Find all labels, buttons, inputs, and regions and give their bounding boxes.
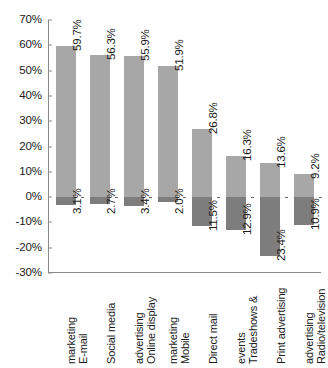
y-axis-tick-label: -10% (16, 217, 42, 229)
x-axis-category-label: Online display (145, 297, 158, 364)
bar-group[interactable]: 55.9%3.4% (124, 20, 144, 273)
bar-group[interactable]: 51.9%2.0% (158, 20, 178, 273)
y-axis-tick-label: -30% (16, 267, 42, 279)
x-axis-category-label: E-mail (77, 334, 90, 364)
bar-value-label-negative: 3.1% (71, 189, 84, 214)
zero-line-tick (183, 197, 186, 198)
bar-segment-positive[interactable] (192, 129, 212, 197)
y-axis-tick-label: 50% (19, 65, 42, 77)
bar-value-label-positive: 26.8% (207, 103, 220, 135)
bar-group[interactable]: 56.3%2.7% (90, 20, 110, 273)
y-axis-tick-label: 10% (19, 166, 42, 178)
y-axis-tick-label: 30% (19, 115, 42, 127)
bar-group[interactable]: 59.7%3.1% (56, 20, 76, 273)
zero-line-tick (251, 197, 254, 198)
bar-value-label-positive: 55.9% (139, 29, 152, 61)
x-axis-category-label: Print advertising (275, 288, 288, 364)
y-axis-tick-label: 20% (19, 141, 42, 153)
plot-area: 59.7%3.1%56.3%2.7%55.9%3.4%51.9%2.0%26.8… (49, 20, 321, 273)
bar-segment-positive[interactable] (226, 156, 246, 197)
bar-value-label-positive: 16.3% (241, 129, 254, 161)
x-axis-category-labels: E-mailmarketingSocial mediaOnline displa… (49, 276, 321, 368)
bar-segment-positive[interactable] (158, 66, 178, 197)
x-axis-category-label: Tradeshows & (247, 296, 260, 364)
x-axis-category-label: advertising (133, 312, 146, 364)
bar-segment-positive[interactable] (124, 56, 144, 197)
bar-segment-positive[interactable] (90, 55, 110, 197)
x-axis-category-label: Direct mail (207, 314, 220, 364)
bar-value-label-negative: 2.7% (105, 189, 118, 214)
bar-value-label-positive: 13.6% (275, 136, 288, 168)
bar-value-label-negative: 10.9% (309, 198, 322, 230)
bar-group[interactable]: 13.6%23.4% (260, 20, 280, 273)
zero-line-tick (115, 197, 118, 198)
x-axis-category-label: Radio/television (315, 289, 328, 364)
bar-value-label-negative: 3.4% (139, 189, 152, 214)
zero-line-tick (285, 197, 288, 198)
y-axis-tick-label: 40% (19, 90, 42, 102)
bar-group[interactable]: 16.3%12.9% (226, 20, 246, 273)
bar-value-label-positive: 9.2% (309, 153, 322, 178)
zero-line-tick (149, 197, 152, 198)
zero-line-tick (217, 197, 220, 198)
bar-value-label-negative: 11.5% (207, 200, 220, 231)
x-axis-category-label: events (235, 332, 248, 364)
bar-value-label-positive: 59.7% (71, 19, 84, 51)
bar-value-label-negative: 2.0% (173, 189, 186, 214)
bar-value-label-positive: 56.3% (105, 28, 118, 60)
y-axis-tick-label: 70% (19, 14, 42, 26)
bar-value-label-positive: 51.9% (173, 39, 186, 71)
y-axis: 70%60%50%40%30%20%10%0%-10%-20%-30% (0, 20, 48, 273)
x-axis-category-label: Mobile (179, 332, 192, 364)
y-axis-tick-label: 60% (19, 40, 42, 52)
zero-line-tick (81, 197, 84, 198)
bar-segment-positive[interactable] (56, 46, 76, 197)
zero-line-tick (319, 197, 322, 198)
y-axis-tick-label: -20% (16, 242, 42, 254)
bar-group[interactable]: 26.8%11.5% (192, 20, 212, 273)
x-axis-category-label: Social media (105, 303, 118, 364)
bar-group[interactable]: 9.2%10.9% (294, 20, 314, 273)
bar-value-label-negative: 12.9% (241, 203, 254, 235)
x-axis-category-label: marketing (167, 317, 180, 364)
x-axis-category-label: marketing (65, 317, 78, 364)
x-axis-category-label: advertising (303, 312, 316, 364)
bar-value-label-negative: 23.4% (275, 230, 288, 262)
y-axis-tick-label: 0% (26, 191, 42, 203)
